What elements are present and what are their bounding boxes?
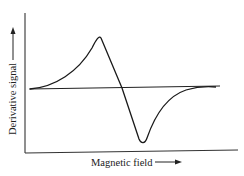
derivative-signal-diagram: Derivative signal Magnetic field: [0, 0, 244, 176]
y-axis-arrow-icon: [11, 27, 16, 34]
x-axis-arrow-icon: [175, 160, 182, 165]
y-axis-label-text: Derivative signal: [7, 63, 18, 135]
derivative-curve: [30, 37, 216, 143]
x-axis-label-text: Magnetic field: [91, 157, 153, 168]
x-axis: [25, 150, 238, 153]
y-axis-label: Derivative signal: [7, 63, 18, 135]
